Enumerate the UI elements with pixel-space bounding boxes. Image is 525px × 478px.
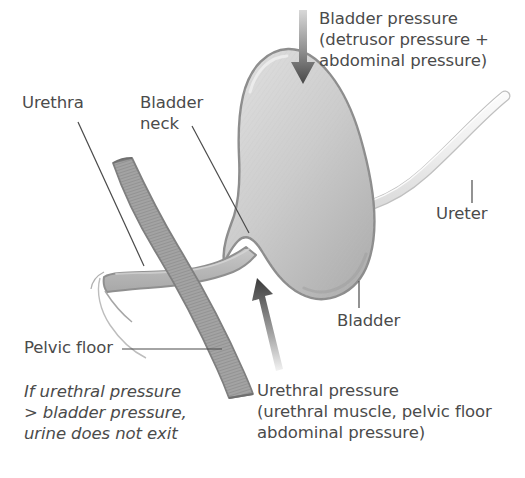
- label-bladder-neck: Bladder neck: [140, 92, 203, 134]
- label-urethral-pressure: Urethral pressure (urethral muscle, pelv…: [257, 380, 492, 443]
- label-pelvic-floor: Pelvic floor: [24, 337, 113, 358]
- label-ureter: Ureter: [436, 203, 487, 224]
- bladder-pressure-diagram: Bladder pressure (detrusor pressure + ab…: [0, 0, 525, 478]
- caption-pressure-rule: If urethral pressure > bladder pressure,…: [24, 381, 187, 444]
- urethral-pressure-arrow: [252, 278, 283, 371]
- label-bladder-pressure: Bladder pressure (detrusor pressure + ab…: [319, 8, 489, 71]
- label-urethra: Urethra: [22, 92, 84, 113]
- label-bladder: Bladder: [337, 310, 400, 331]
